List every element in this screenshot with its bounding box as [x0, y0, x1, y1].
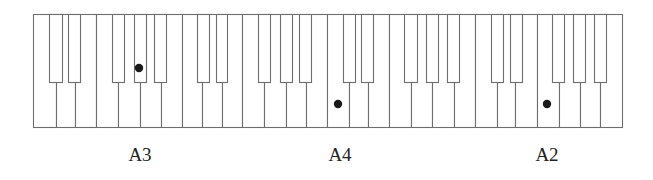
black-key — [492, 15, 504, 83]
note-label-a2: A2 — [535, 144, 558, 166]
black-key — [198, 15, 210, 83]
black-key — [344, 15, 356, 83]
marker-dot-a2 — [543, 100, 551, 108]
note-label-a3: A3 — [128, 144, 151, 166]
black-key — [427, 15, 439, 83]
black-key — [448, 15, 460, 83]
black-key — [362, 15, 374, 83]
black-key — [259, 15, 271, 83]
black-key — [574, 15, 586, 83]
black-key — [69, 15, 81, 83]
black-key — [511, 15, 523, 83]
black-key — [553, 15, 565, 83]
note-label-a4: A4 — [328, 144, 351, 166]
black-key — [50, 15, 63, 83]
black-key — [155, 15, 167, 83]
black-key — [405, 15, 418, 83]
black-key — [281, 15, 293, 83]
black-key — [135, 15, 147, 83]
marker-dot-a4 — [334, 100, 342, 108]
black-key — [217, 15, 228, 83]
marker-dot-a3 — [135, 64, 143, 72]
black-key — [300, 15, 312, 83]
black-key — [595, 15, 607, 83]
black-key — [113, 15, 125, 83]
